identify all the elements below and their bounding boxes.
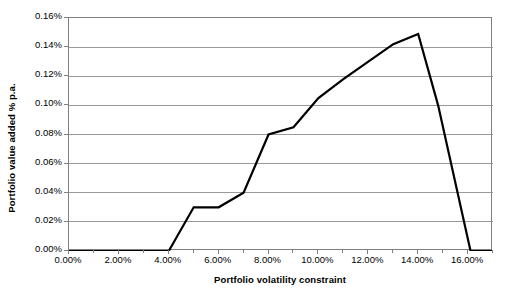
chart-container: Portfolio value added % p.a. 0.00%0.02%0… [0,0,507,296]
x-minor-tick-mark [193,250,194,253]
x-minor-tick-mark [243,250,244,253]
y-tick-mark [64,192,68,193]
x-tick-mark [268,250,269,254]
x-tick-mark [168,250,169,254]
x-axis-title: Portfolio volatility constraint [68,274,492,285]
y-tick-mark [64,17,68,18]
x-minor-tick-mark [292,250,293,253]
y-tick-label: 0.08% [16,127,62,138]
x-minor-tick-mark [93,250,94,253]
plot-svg [69,18,493,251]
y-tick-mark [64,163,68,164]
x-minor-tick-mark [492,250,493,253]
x-minor-tick-mark [342,250,343,253]
x-tick-mark [68,250,69,254]
x-tick-mark [118,250,119,254]
plot-area [68,17,492,250]
y-tick-label: 0.14% [16,39,62,50]
x-minor-tick-mark [392,250,393,253]
y-tick-label: 0.16% [16,10,62,21]
x-tick-mark [317,250,318,254]
y-tick-label: 0.06% [16,156,62,167]
data-line [69,34,493,251]
y-tick-mark [64,104,68,105]
x-tick-mark [218,250,219,254]
series-group [69,34,493,251]
x-tick-mark [467,250,468,254]
y-tick-label: 0.04% [16,185,62,196]
y-tick-mark [64,75,68,76]
x-tick-label: 16.00% [437,254,497,265]
x-tick-mark [417,250,418,254]
x-minor-tick-mark [143,250,144,253]
y-tick-label: 0.02% [16,214,62,225]
y-tick-mark [64,221,68,222]
y-tick-label: 0.10% [16,97,62,108]
y-tick-mark [64,134,68,135]
y-tick-mark [64,46,68,47]
y-tick-label: 0.00% [16,243,62,254]
y-tick-label: 0.12% [16,68,62,79]
x-tick-mark [367,250,368,254]
x-minor-tick-mark [442,250,443,253]
